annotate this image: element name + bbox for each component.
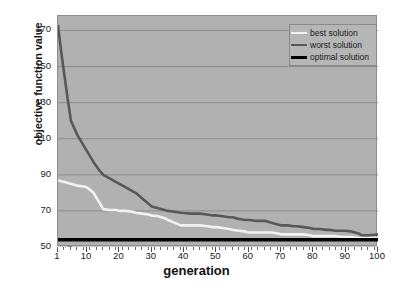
x-tick-mark-major — [183, 247, 184, 252]
x-tick-mark-minor — [109, 247, 110, 250]
x-tick-mark-minor — [296, 247, 297, 250]
x-tick-mark-minor — [180, 247, 181, 250]
x-tick-mark-minor — [219, 247, 220, 250]
x-tick-mark-major — [118, 247, 119, 252]
x-tick-mark-minor — [232, 247, 233, 250]
x-tick-mark-minor — [173, 247, 174, 250]
x-tick-mark-minor — [199, 247, 200, 250]
x-tick-mark-minor — [374, 247, 375, 250]
x-tick-mark-major — [151, 247, 152, 252]
x-tick-mark-minor — [341, 247, 342, 250]
x-tick-mark-minor — [63, 247, 64, 250]
x-tick-mark-minor — [264, 247, 265, 250]
x-tick-mark-minor — [348, 247, 349, 250]
x-tick-mark-minor — [290, 247, 291, 250]
x-tick-mark-major — [312, 247, 313, 252]
x-tick-mark-minor — [70, 247, 71, 250]
x-tick-mark-minor — [361, 247, 362, 250]
x-tick-mark-minor — [212, 247, 213, 250]
x-tick-mark-minor — [167, 247, 168, 250]
x-tick-mark-minor — [270, 247, 271, 250]
x-tick-mark-minor — [257, 247, 258, 250]
x-tick-mark-minor — [251, 247, 252, 250]
x-tick-mark-major — [345, 247, 346, 252]
x-tick-mark-major — [377, 247, 378, 252]
x-tick-mark-minor — [316, 247, 317, 250]
x-tick-mark-minor — [367, 247, 368, 250]
x-tick-mark-minor — [322, 247, 323, 250]
x-tick-mark-minor — [329, 247, 330, 250]
x-tick-mark-minor — [186, 247, 187, 250]
x-tick-mark-major — [280, 247, 281, 252]
x-tick-mark-minor — [335, 247, 336, 250]
x-tick-mark-minor — [141, 247, 142, 250]
x-tick-mark-minor — [154, 247, 155, 250]
x-tick-mark-minor — [354, 247, 355, 250]
x-tick-mark-minor — [244, 247, 245, 250]
x-tick-mark-minor — [309, 247, 310, 250]
x-tick-mark-major — [248, 247, 249, 252]
x-tick-mark-minor — [225, 247, 226, 250]
x-tick-mark-minor — [303, 247, 304, 250]
x-tick-mark-minor — [57, 247, 58, 250]
x-tick-mark-minor — [76, 247, 77, 250]
x-tick-mark-minor — [277, 247, 278, 250]
x-tick-mark-minor — [238, 247, 239, 250]
x-tick-mark-minor — [89, 247, 90, 250]
x-tick-mark-minor — [160, 247, 161, 250]
x-tick-mark-minor — [148, 247, 149, 250]
x-tick-mark-major — [86, 247, 87, 252]
x-tick-mark-minor — [135, 247, 136, 250]
x-tick-mark-minor — [193, 247, 194, 250]
chart-figure: objective function value 170150130110907… — [0, 0, 393, 298]
x-tick-mark-minor — [83, 247, 84, 250]
x-axis-ticks: 1102030405060708090100 — [0, 0, 393, 298]
x-tick-mark-minor — [115, 247, 116, 250]
x-tick-mark-minor — [128, 247, 129, 250]
x-tick-mark-minor — [283, 247, 284, 250]
x-tick-mark-minor — [102, 247, 103, 250]
x-tick-mark-minor — [122, 247, 123, 250]
x-tick-mark-minor — [96, 247, 97, 250]
x-tick-mark-major — [215, 247, 216, 252]
x-axis-title: generation — [0, 263, 393, 278]
x-tick-mark-minor — [206, 247, 207, 250]
